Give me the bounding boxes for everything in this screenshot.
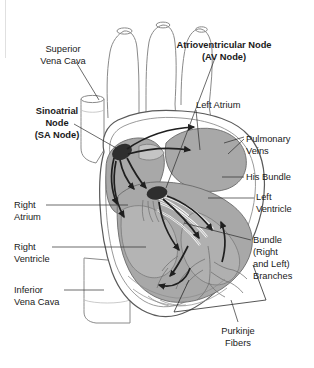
label-line: Atrioventricular Node [176,40,271,50]
label-line: Purkinje [221,326,255,336]
label-line: Right [14,200,36,210]
label-line: Superior [45,44,80,54]
label-line: Vena Cava [14,297,60,307]
superior-vena-cava-shape [81,95,104,163]
label-line: Pulmonary [246,134,291,144]
label-line: Left Atrium [196,100,241,110]
label-line: Bundle [253,235,282,245]
label-his-bundle: His Bundle [246,172,291,182]
label-line: Ventricle [14,254,50,264]
label-left-atrium: Left Atrium [196,100,241,110]
label-line: Left [256,192,272,202]
label-line: Veins [246,146,269,156]
label-line: Fibers [225,338,251,348]
label-line: Vena Cava [40,56,86,66]
label-line: Ventricle [256,204,292,214]
label-line: (Right [253,247,278,257]
label-line: His Bundle [246,172,291,182]
label-line: (AV Node) [202,52,246,62]
label-line: Branches [253,271,293,281]
label-line: Atrium [14,212,41,222]
label-line: and Left) [253,259,290,269]
conduction-system-figure: SuperiorVena CavaAtrioventricular Node(A… [0,0,314,368]
label-line: Inferior [14,285,43,295]
label-line: Right [14,242,36,252]
label-line: Node [45,118,68,128]
label-line: (SA Node) [35,130,80,140]
label-line: Sinoatrial [36,106,78,116]
